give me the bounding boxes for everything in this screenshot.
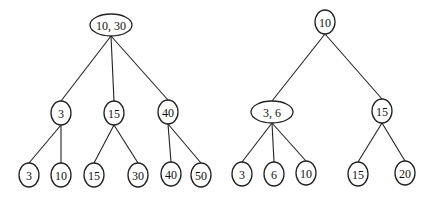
tree-node: 15 <box>84 163 104 187</box>
node-label: 50 <box>195 169 207 183</box>
tree-node: 40 <box>158 100 178 124</box>
node-label: 40 <box>165 168 177 182</box>
tree-edge <box>168 124 171 162</box>
tree-edge <box>168 124 201 163</box>
tree-node: 15 <box>104 101 124 125</box>
tree-edge <box>114 125 138 163</box>
node-label: 40 <box>162 106 174 120</box>
tree-node: 10 <box>315 10 335 34</box>
node-label: 15 <box>88 169 100 183</box>
tree-edge <box>272 123 306 161</box>
node-label: 10 <box>300 167 312 181</box>
tree-edge <box>111 36 168 100</box>
node-label: 3, 6 <box>263 106 281 120</box>
node-label: 10 <box>319 16 331 30</box>
tree-edge <box>94 125 114 163</box>
tree-node: 30 <box>128 163 148 187</box>
node-label: 15 <box>376 105 388 119</box>
tree-edge <box>272 123 274 162</box>
tree-edge <box>272 34 325 101</box>
edges-layer <box>29 34 405 163</box>
node-label: 10 <box>55 169 67 183</box>
nodes-layer: 10, 303154031015304050103, 61536101520 <box>19 10 415 187</box>
tree-node: 10 <box>296 161 316 185</box>
tree-edge <box>358 123 382 162</box>
tree-edge <box>61 36 111 101</box>
tree-edge <box>325 34 382 99</box>
node-label: 15 <box>108 107 120 121</box>
tree-diagram: 10, 303154031015304050103, 61536101520 <box>0 0 435 197</box>
tree-node: 15 <box>372 99 392 123</box>
tree-node: 3 <box>19 163 39 187</box>
tree-edge <box>111 36 114 101</box>
node-label: 3 <box>58 107 64 121</box>
node-label: 3 <box>26 169 32 183</box>
left-tree-edges <box>29 36 201 163</box>
tree-node: 15 <box>348 162 368 186</box>
node-label: 15 <box>352 168 364 182</box>
tree-edge <box>242 123 272 162</box>
tree-edge <box>382 123 405 161</box>
tree-node: 10, 30 <box>90 14 132 36</box>
tree-node: 3 <box>51 101 71 125</box>
tree-edge <box>29 125 61 163</box>
node-label: 10, 30 <box>96 19 126 33</box>
tree-node: 10 <box>51 163 71 187</box>
right-tree-edges <box>242 34 405 162</box>
tree-node: 6 <box>264 162 284 186</box>
tree-node: 20 <box>395 161 415 185</box>
node-label: 30 <box>132 169 144 183</box>
tree-node: 50 <box>191 163 211 187</box>
tree-node: 3, 6 <box>251 101 293 123</box>
tree-node: 40 <box>161 162 181 186</box>
node-label: 3 <box>239 168 245 182</box>
tree-node: 3 <box>232 162 252 186</box>
node-label: 20 <box>399 167 411 181</box>
node-label: 6 <box>271 168 277 182</box>
